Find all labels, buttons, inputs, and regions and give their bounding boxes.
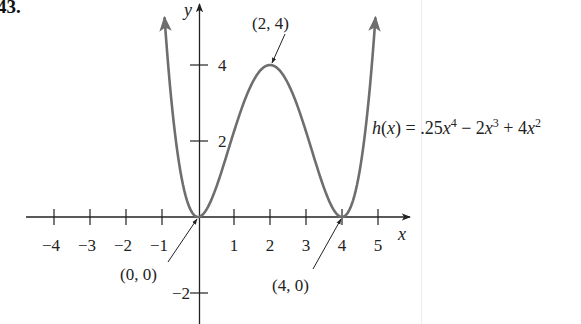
y-axis-label: y bbox=[182, 0, 192, 20]
curve-h bbox=[165, 17, 376, 217]
annotation-root: (4, 0) bbox=[272, 276, 309, 295]
annotation-max: (2, 4) bbox=[252, 14, 289, 33]
annotation-origin: (0, 0) bbox=[120, 265, 157, 284]
x-tick-label: −1 bbox=[150, 236, 168, 255]
x-axis-label: x bbox=[397, 224, 406, 244]
curve-right-branch bbox=[270, 17, 375, 217]
y-tick-label: 4 bbox=[218, 56, 227, 75]
function-graph: xy −4−3−2−11234542−2 (2, 4)(0, 0)(4, 0) bbox=[0, 0, 581, 324]
x-tick-label: −3 bbox=[78, 236, 96, 255]
axes: xy bbox=[26, 0, 410, 324]
x-tick-label: 5 bbox=[374, 236, 383, 255]
x-tick-label: −4 bbox=[42, 236, 61, 255]
x-tick-label: 1 bbox=[230, 236, 239, 255]
curve-left-branch bbox=[165, 17, 270, 217]
axis-ticks: −4−3−2−11234542−2 bbox=[42, 56, 382, 303]
y-tick-label: −2 bbox=[172, 284, 190, 303]
x-tick-label: −2 bbox=[114, 236, 132, 255]
x-tick-label: 2 bbox=[266, 236, 275, 255]
x-tick-label: 3 bbox=[302, 236, 311, 255]
y-tick-label: 2 bbox=[218, 132, 227, 151]
x-tick-label: 4 bbox=[338, 236, 347, 255]
function-label: h(x) = .25x4 − 2x3 + 4x2 bbox=[372, 118, 541, 139]
